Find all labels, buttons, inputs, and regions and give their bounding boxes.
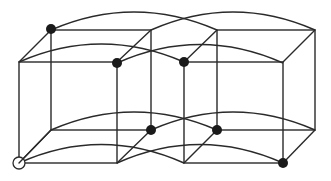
left-cube-edge (117, 130, 151, 163)
connecting-arc (51, 112, 217, 130)
connecting-arc (51, 12, 217, 30)
connecting-arc (19, 44, 184, 62)
left-cube-edge (117, 30, 151, 62)
left-cube-edge (19, 130, 51, 163)
connecting-arc (151, 112, 315, 130)
right-cube-edge (283, 130, 315, 163)
filled-vertex-dot (278, 158, 288, 168)
connecting-arc (151, 12, 315, 30)
filled-vertex-dot (112, 58, 122, 68)
right-cube-edge (184, 130, 217, 163)
filled-vertex-dot (46, 24, 56, 34)
diagram-canvas (0, 0, 331, 181)
left-cube-edge (19, 30, 51, 62)
cube-diagram (0, 0, 331, 181)
filled-vertex-dot (146, 125, 156, 135)
filled-vertex-dot (179, 57, 189, 67)
right-cube-edge (184, 30, 217, 62)
filled-vertex-dot (212, 125, 222, 135)
connecting-arc (19, 145, 184, 164)
right-cube-edge (283, 30, 315, 62)
